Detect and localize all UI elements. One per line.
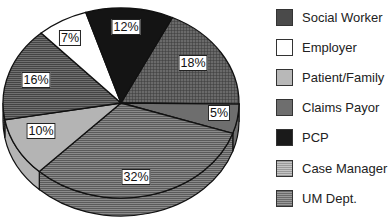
percent-label: 18% [178, 55, 207, 71]
patient-family-swatch [276, 69, 293, 86]
legend-label: Social Worker [302, 10, 383, 25]
legend-item-pcp: PCP [276, 126, 329, 148]
percent-label: 7% [59, 30, 81, 46]
pcp-swatch [276, 129, 293, 146]
percent-label: 32% [121, 169, 150, 185]
percent-label: 10% [26, 123, 55, 139]
legend-item-social-worker: Social Worker [276, 6, 383, 28]
percent-label: 16% [21, 72, 50, 88]
legend-item-patient-family: Patient/Family [276, 66, 384, 88]
legend-label: PCP [302, 130, 329, 145]
legend-label: Patient/Family [302, 70, 384, 85]
percent-label: 5% [208, 105, 230, 121]
employer-swatch [276, 39, 293, 56]
percent-label: 12% [111, 19, 140, 35]
legend-label: Employer [302, 40, 357, 55]
um-dept-swatch [276, 190, 293, 207]
legend-label: Claims Payor [302, 100, 379, 115]
social-worker-swatch [276, 9, 293, 26]
legend-item-um-dept: UM Dept. [276, 187, 357, 209]
legend-item-employer: Employer [276, 36, 357, 58]
case-manager-swatch [276, 160, 293, 177]
claims-payor-swatch [276, 99, 293, 116]
legend-label: Case Manager [302, 161, 387, 176]
legend-item-claims-payor: Claims Payor [276, 96, 379, 118]
legend-item-case-manager: Case Manager [276, 157, 387, 179]
legend-label: UM Dept. [302, 191, 357, 206]
